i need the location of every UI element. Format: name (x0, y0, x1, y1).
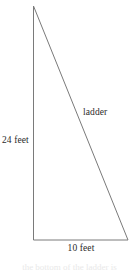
hypotenuse-line (34, 6, 129, 240)
hypotenuse-label: ladder (83, 107, 107, 118)
clipped-caption-text: the bottom of the ladder is (0, 262, 139, 271)
base-label: 10 feet (33, 243, 129, 254)
vertical-leg-label: 24 feet (2, 135, 29, 146)
geometry-figure: 24 feet ladder 10 feet the bottom of the… (0, 0, 139, 271)
